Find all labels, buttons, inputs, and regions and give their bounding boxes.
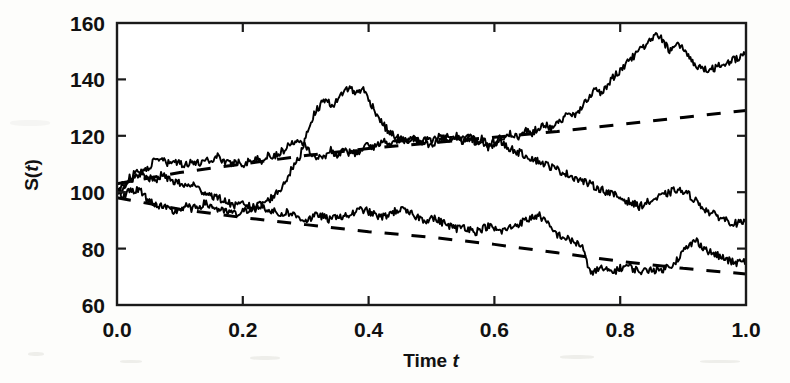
x-tick-label: 0.6 [480, 318, 509, 341]
y-tick-label: 140 [70, 68, 105, 91]
y-axis-tick-labels: 6080100120140160 [70, 12, 105, 317]
x-tick-label: 0.0 [102, 318, 131, 341]
x-tick-label: 0.2 [228, 318, 257, 341]
y-tick-label: 120 [70, 125, 105, 148]
figure-canvas: 0.00.20.40.60.81.0 6080100120140160 Time… [0, 0, 790, 383]
svg-text:S(t): S(t) [21, 159, 42, 191]
x-axis-tick-labels: 0.00.20.40.60.81.0 [102, 318, 760, 341]
x-tick-label: 0.4 [354, 318, 384, 341]
y-tick-label: 100 [70, 181, 105, 204]
y-tick-label: 60 [82, 294, 105, 317]
x-axis-title: Time t [403, 350, 459, 371]
x-tick-label: 1.0 [731, 318, 760, 341]
x-tick-label: 0.8 [606, 318, 636, 341]
plot-background [117, 23, 746, 305]
svg-text:Time t: Time t [403, 350, 459, 371]
chart-svg: 0.00.20.40.60.81.0 6080100120140160 Time… [0, 0, 790, 383]
y-axis-title: S(t) [21, 159, 42, 191]
y-tick-label: 80 [82, 238, 105, 261]
y-tick-label: 160 [70, 12, 105, 35]
